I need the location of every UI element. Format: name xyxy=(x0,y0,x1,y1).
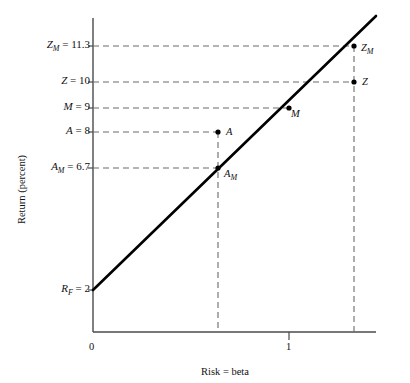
point-am-sub: M xyxy=(230,173,237,182)
y-tick-m-value: = 9 xyxy=(73,100,90,112)
point-label-a: A xyxy=(226,126,232,140)
y-axis-title: Return (percent) xyxy=(16,135,27,245)
y-tick-am-value: = 6.7 xyxy=(65,160,90,172)
x-tick-label-zero: 0 xyxy=(89,341,94,352)
point-a-name: A xyxy=(226,126,232,137)
point-z-name: Z xyxy=(362,76,368,87)
y-tick-label-am: AM = 6.7 xyxy=(51,160,90,175)
security-market-line xyxy=(93,16,376,290)
y-tick-am-sub: M xyxy=(58,166,65,175)
horizontal-guide-lines xyxy=(93,46,354,168)
point-m-name: M xyxy=(291,108,300,119)
point-zm-sub: M xyxy=(367,47,374,56)
y-tick-rf-name: R xyxy=(61,282,68,294)
y-tick-rf-value: = 2 xyxy=(73,282,90,294)
data-point-am xyxy=(215,165,220,170)
y-tick-label-m: M = 9 xyxy=(64,100,90,115)
vertical-guide-lines xyxy=(218,46,354,332)
y-tick-label-a: A = 8 xyxy=(66,124,90,139)
data-point-zm xyxy=(351,43,356,48)
y-tick-a-value: = 8 xyxy=(73,124,90,136)
y-tick-label-zm: ZM = 11.3 xyxy=(47,38,90,53)
x-tick-label-one: 1 xyxy=(286,341,291,352)
y-tick-a-name: A xyxy=(66,124,73,136)
y-tick-label-z: Z = 10 xyxy=(61,74,90,89)
y-tick-z-value: = 10 xyxy=(67,74,90,86)
y-tick-label-rf: RF = 2 xyxy=(61,282,90,297)
y-tick-zm-value: = 11.3 xyxy=(59,38,90,50)
data-point-a xyxy=(215,129,220,134)
point-label-zm: ZM xyxy=(361,42,374,56)
point-label-z: Z xyxy=(362,76,368,90)
y-tick-am-name: A xyxy=(51,160,58,172)
point-label-am: AM xyxy=(224,168,237,182)
y-tick-m-name: M xyxy=(64,100,73,112)
security-market-line-chart xyxy=(0,0,410,383)
data-point-z xyxy=(351,79,356,84)
point-label-m: M xyxy=(291,108,300,122)
x-axis-title: Risk = beta xyxy=(201,366,249,377)
